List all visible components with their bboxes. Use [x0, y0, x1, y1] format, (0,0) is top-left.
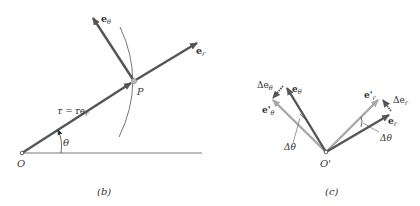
delta-er-label: Δer — [393, 95, 409, 107]
unit-vector-er — [134, 43, 197, 81]
theta-angle-arc — [58, 130, 62, 153]
unit-vector-etheta — [93, 18, 134, 81]
er-prime-label: e'r — [364, 90, 376, 102]
origin-prime-label: O' — [320, 158, 331, 169]
etheta-label: eθ — [101, 13, 111, 26]
point-p-label: P — [136, 86, 144, 97]
vector-delta-etheta — [273, 86, 283, 98]
position-vector-label: r = rer — [58, 106, 89, 118]
origin-label: O — [17, 158, 25, 169]
origin-o-marker — [20, 151, 24, 155]
trajectory-arc — [119, 27, 133, 137]
polar-coordinates-diagram: O P θ r = rer er eθ (b) — [0, 0, 420, 206]
delta-theta-left-label: Δθ — [283, 142, 296, 152]
etheta-prime-label: e'θ — [262, 105, 274, 117]
theta-label: θ — [63, 137, 69, 148]
panel-b-caption: (b) — [97, 186, 111, 197]
panel-c: O' Δeθ eθ e'θ Δθ e'r Δer er Δθ (c) — [257, 80, 409, 197]
etheta-label-c: eθ — [292, 84, 302, 96]
position-vector-r — [22, 83, 131, 153]
er-label-c: er — [388, 116, 398, 128]
delta-theta-right-label: Δθ — [379, 133, 392, 143]
point-p — [131, 78, 136, 83]
panel-b: O P θ r = rer er eθ (b) — [17, 13, 206, 197]
panel-c-caption: (c) — [325, 186, 339, 197]
origin-o-prime-marker — [324, 150, 328, 154]
delta-etheta-label: Δeθ — [257, 80, 273, 92]
er-label: er — [196, 45, 206, 58]
vector-delta-er — [383, 100, 391, 111]
